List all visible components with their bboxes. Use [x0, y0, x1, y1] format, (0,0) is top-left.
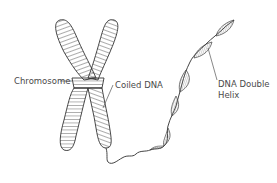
label-helix-line2: Helix: [218, 90, 270, 101]
label-chromosome: Chromosome: [14, 76, 70, 87]
dna-thread: [106, 20, 234, 163]
label-helix-line1: DNA Double: [218, 79, 270, 90]
leader-line-helix: [208, 48, 217, 80]
leader-line-coiled-dna: [103, 85, 113, 108]
chromosome-arm-upper-left: [56, 20, 96, 80]
helix-twist: [171, 96, 178, 116]
label-coiled-dna: Coiled DNA: [115, 80, 163, 91]
helix-twist: [179, 70, 189, 92]
chromosome-arm-lower-left: [60, 88, 88, 150]
dna-strand: [106, 20, 234, 163]
label-dna-double-helix: DNA Double Helix: [218, 79, 270, 101]
helix-twist: [163, 128, 170, 146]
centromere: [72, 78, 104, 88]
helix-twist: [194, 42, 212, 58]
chromosome-arm-upper-right: [88, 20, 118, 80]
helix-twist: [216, 20, 234, 36]
